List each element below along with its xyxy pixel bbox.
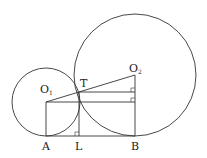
label-t: T <box>80 77 88 90</box>
label-l: L <box>75 140 83 153</box>
segment-o1-o2 <box>46 75 135 102</box>
right-angle-mark-l <box>75 132 79 136</box>
right-angle-mark-o1-row <box>131 98 135 102</box>
label-a: A <box>41 140 51 153</box>
right-angle-mark-t-row <box>131 88 135 92</box>
geometry-diagram: O1 T O2 A L B <box>0 0 207 158</box>
label-b: B <box>131 140 139 153</box>
label-o1: O1 <box>40 83 53 96</box>
label-o2: O2 <box>129 62 142 75</box>
